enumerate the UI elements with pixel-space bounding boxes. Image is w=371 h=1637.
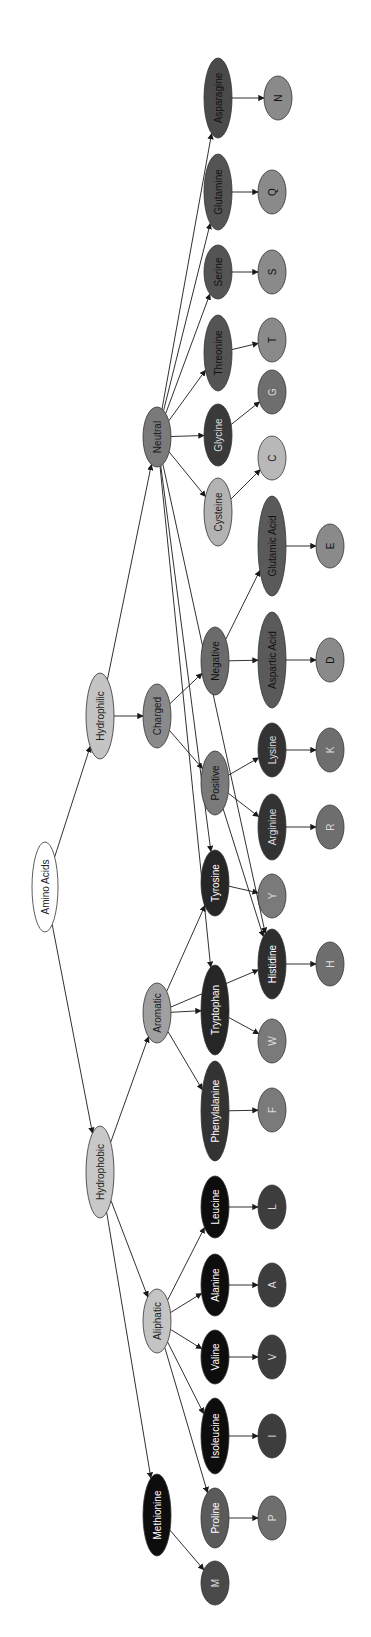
- node-label: Tryptophan: [210, 985, 221, 1035]
- node-label: Aliphatic: [152, 1302, 163, 1340]
- node-tyrosine: Tyrosine: [201, 850, 229, 916]
- edge-amino-acids-to-hydrophobic: [52, 924, 92, 1133]
- node-label: E: [325, 542, 336, 549]
- node-label: V: [267, 1353, 278, 1360]
- edge-aromatic-to-tryptophan: [171, 1011, 201, 1013]
- node-n: N: [264, 76, 292, 120]
- edge-glycine-to-g: [231, 402, 259, 425]
- node-label: Aspartic Acid: [267, 631, 278, 689]
- node-label: I: [267, 1435, 278, 1438]
- edge-threonine-to-t: [232, 343, 258, 349]
- node-c: C: [258, 436, 286, 480]
- node-valine: Valine: [201, 1330, 229, 1384]
- edge-neutral-to-glycine: [171, 436, 204, 437]
- node-serine: Serine: [204, 245, 232, 299]
- edge-tryptophan-to-w: [229, 1018, 259, 1034]
- node-aromatic: Aromatic: [143, 983, 171, 1043]
- node-label: Valine: [210, 1343, 221, 1370]
- node-label: D: [325, 656, 336, 663]
- node-label: M: [210, 1579, 221, 1587]
- node-label: Hydrophilic: [95, 691, 106, 740]
- edge-aromatic-to-phenylalanine: [168, 1032, 202, 1090]
- edge-tyrosine-to-y: [229, 886, 258, 893]
- node-t: T: [258, 318, 286, 362]
- node-methionine: Methionine: [143, 1474, 171, 1556]
- node-label: Aromatic: [152, 993, 163, 1032]
- node-tryptophan: Tryptophan: [201, 965, 229, 1055]
- edge-negative-to-aspartic-acid: [229, 660, 258, 661]
- node-h: H: [316, 942, 344, 986]
- node-label: Leucine: [210, 1189, 221, 1224]
- edge-charged-to-negative: [170, 673, 202, 703]
- edge-phenylalanine-to-f: [229, 1110, 258, 1111]
- node-a: A: [258, 1263, 286, 1307]
- node-label: Threonine: [213, 330, 224, 375]
- node-cysteine: Cysteine: [204, 478, 232, 546]
- edge-methionine-to-m: [170, 1530, 204, 1570]
- node-label: Amino Acids: [40, 859, 51, 914]
- edge-hydrophilic-to-neutral: [107, 465, 151, 680]
- node-i: I: [258, 1414, 286, 1458]
- node-threonine: Threonine: [204, 315, 232, 391]
- edge-cysteine-to-c: [231, 470, 260, 499]
- node-label: W: [267, 1036, 278, 1046]
- node-k: K: [316, 728, 344, 772]
- node-label: C: [267, 454, 278, 461]
- node-label: Histidine: [267, 944, 278, 983]
- node-p: P: [258, 1496, 286, 1540]
- node-label: K: [325, 746, 336, 753]
- node-y: Y: [258, 874, 286, 918]
- node-label: Lysine: [267, 735, 278, 764]
- node-label: Hydrophobic: [95, 1144, 106, 1200]
- node-m: M: [201, 1561, 229, 1605]
- edge-aromatic-to-tyrosine: [167, 906, 205, 992]
- edge-positive-to-arginine: [228, 793, 258, 817]
- node-glycine: Glycine: [204, 404, 232, 466]
- node-proline: Proline: [201, 1488, 229, 1548]
- node-v: V: [258, 1335, 286, 1379]
- node-positive: Positive: [201, 751, 229, 815]
- node-label: Charged: [152, 697, 163, 735]
- node-label: Positive: [210, 765, 221, 800]
- node-label: Isoleucine: [210, 1413, 221, 1458]
- edge-positive-to-histidine: [223, 809, 263, 937]
- node-label: Arginine: [267, 808, 278, 845]
- node-label: Negative: [210, 641, 221, 681]
- edge-positive-to-lysine: [229, 758, 259, 775]
- node-r: R: [316, 805, 344, 849]
- node-label: G: [267, 388, 278, 396]
- node-lysine: Lysine: [258, 723, 286, 777]
- node-isoleucine: Isoleucine: [201, 1398, 229, 1474]
- node-q: Q: [258, 170, 286, 214]
- edge-neutral-to-cysteine: [169, 452, 205, 497]
- edge-neutral-to-threonine: [169, 370, 206, 421]
- node-charged: Charged: [143, 684, 171, 748]
- node-asparagine: Asparagine: [204, 58, 232, 138]
- node-negative: Negative: [201, 627, 229, 695]
- edge-aliphatic-to-isoleucine: [168, 1342, 204, 1414]
- node-label: A: [267, 1281, 278, 1288]
- amino-acid-classification-diagram: Amino AcidsHydrophilicHydrophobicCharged…: [0, 0, 371, 1637]
- edge-neutral-to-glutamine: [164, 224, 211, 411]
- node-e: E: [316, 524, 344, 568]
- edge-negative-to-glutamic-acid: [226, 571, 260, 640]
- node-histidine: Histidine: [258, 929, 286, 999]
- nodes-layer: Amino AcidsHydrophilicHydrophobicCharged…: [32, 58, 344, 1605]
- edge-aliphatic-to-valine: [171, 1329, 202, 1348]
- edge-hydrophobic-to-aliphatic: [111, 1201, 148, 1297]
- node-amino-acids: Amino Acids: [32, 842, 58, 932]
- node-label: Glutamic Acid: [267, 515, 278, 576]
- node-alanine: Alanine: [201, 1254, 229, 1316]
- node-label: Asparagine: [213, 72, 224, 123]
- node-s: S: [258, 250, 286, 294]
- node-label: S: [267, 268, 278, 275]
- edge-amino-acids-to-hydrophilic: [55, 747, 90, 857]
- node-label: Neutral: [152, 421, 163, 453]
- node-label: Serine: [213, 257, 224, 286]
- node-arginine: Arginine: [258, 794, 286, 860]
- node-label: Y: [267, 892, 278, 899]
- node-w: W: [258, 1019, 286, 1063]
- node-label: Tyrosine: [210, 864, 221, 902]
- node-glutamic-acid: Glutamic Acid: [258, 496, 286, 596]
- node-label: L: [267, 1204, 278, 1210]
